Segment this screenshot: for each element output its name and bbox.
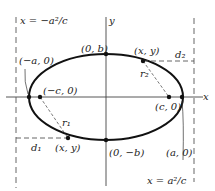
point-upper-right	[141, 59, 145, 63]
d1-label: d₁	[31, 142, 41, 153]
point-right-vertex	[180, 95, 184, 99]
y-axis-label: y	[108, 15, 115, 26]
point-left-vertex	[27, 95, 31, 99]
ellipse-diagram: x y x = −a²/c x = a²/c (0, b) (0, −b) (−…	[0, 0, 215, 191]
point-bottom-vertex	[104, 138, 108, 142]
right-directrix-label: x = a²/c	[147, 175, 187, 186]
right-vertex-label: (a, 0)	[166, 147, 193, 158]
point-left-focus	[38, 95, 42, 99]
r2-line	[143, 61, 169, 97]
r2-label: r₂	[140, 68, 149, 79]
point-lower-left	[66, 136, 70, 140]
right-focus-label: (c, 0)	[155, 101, 181, 112]
left-vertex-label: (−a, 0)	[19, 55, 54, 66]
d2-label: d₂	[175, 49, 185, 60]
top-vertex-label: (0, b)	[81, 43, 108, 54]
r1-label: r₁	[62, 117, 71, 128]
point-right-focus	[167, 95, 171, 99]
left-directrix-label: x = −a²/c	[20, 15, 68, 26]
x-axis-label: x	[203, 91, 209, 102]
upper-point-label: (x, y)	[134, 45, 160, 56]
arrow-left-vertex	[25, 69, 28, 94]
bottom-vertex-label: (0, −b)	[109, 147, 144, 158]
left-focus-label: (−c, 0)	[43, 85, 78, 96]
lower-point-label: (x, y)	[55, 142, 81, 153]
